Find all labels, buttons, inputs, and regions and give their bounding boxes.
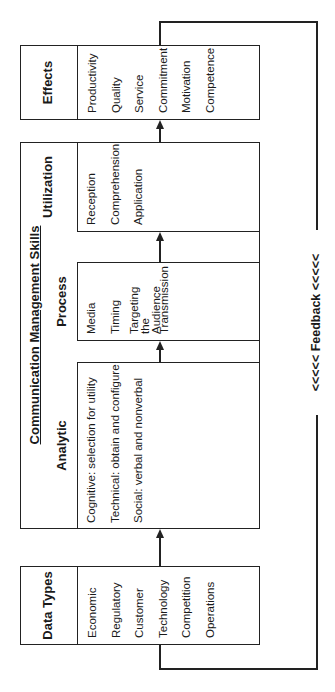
- feedback-line-corner-right: [159, 22, 318, 24]
- analytic-title: Analytic: [54, 362, 69, 529]
- data-type-item: Customer: [128, 571, 152, 638]
- process-item: Media: [80, 267, 104, 334]
- process-item: Timing: [104, 267, 128, 334]
- arrow-utilization-to-effects: [159, 128, 161, 142]
- process-box: Media Timing Targeting the Audience Tran…: [77, 262, 260, 341]
- feedback-line-lower: [316, 415, 318, 670]
- data-types-list: Economic Regulatory Customer Technology …: [81, 571, 222, 638]
- data-types-box: Data Types Economic Regulatory Customer …: [20, 566, 260, 645]
- diagram-canvas: Data Types Economic Regulatory Customer …: [0, 0, 335, 692]
- data-types-header: Data Types: [21, 567, 78, 644]
- data-type-item: Technology: [152, 571, 176, 638]
- analytic-item: Social: verbal and nonverbal: [127, 367, 151, 523]
- arrowhead-icon: [156, 120, 164, 129]
- effects-header: Effects: [21, 46, 78, 119]
- utilization-item: Application: [127, 146, 151, 225]
- effect-item: Competence: [199, 50, 223, 113]
- arrow-analytic-to-process: [159, 349, 161, 362]
- feedback-label: <<<<< Feedback <<<<<: [309, 230, 323, 415]
- feedback-line-upper: [316, 22, 318, 230]
- analytic-list: Cognitive: selection for utility Technic…: [80, 367, 151, 523]
- data-type-item: Operations: [199, 571, 223, 638]
- arrowhead-icon: [156, 341, 164, 350]
- process-item: Transmission: [153, 267, 177, 334]
- effect-item: Service: [128, 50, 152, 113]
- effect-item: Motivation: [175, 50, 199, 113]
- analytic-item: Technical: obtain and configure: [104, 367, 128, 523]
- utilization-box: Reception Comprehension Application: [77, 142, 260, 232]
- process-item: Targeting the Audience: [127, 268, 153, 334]
- utilization-item: Comprehension: [104, 146, 128, 225]
- effect-item: Productivity: [81, 50, 105, 113]
- effect-item: Commitment: [152, 50, 176, 113]
- feedback-line-effects-out: [159, 22, 161, 45]
- data-type-item: Regulatory: [105, 571, 129, 638]
- data-type-item: Economic: [81, 571, 105, 638]
- utilization-item: Reception: [80, 146, 104, 225]
- arrowhead-icon: [156, 232, 164, 241]
- utilization-list: Reception Comprehension Application: [80, 146, 151, 225]
- comm-border-bottom: [259, 142, 261, 529]
- arrow-process-to-utilization: [159, 240, 161, 262]
- data-types-title: Data Types: [40, 567, 55, 644]
- analytic-box: Cognitive: selection for utility Technic…: [77, 362, 260, 529]
- data-type-item: Competition: [175, 571, 199, 638]
- utilization-title: Utilization: [40, 142, 55, 232]
- arrowhead-icon: [156, 529, 164, 538]
- feedback-line-corner-left: [159, 669, 318, 671]
- effects-box: Effects Productivity Quality Service Com…: [20, 45, 260, 120]
- analytic-item: Cognitive: selection for utility: [80, 367, 104, 523]
- effects-list: Productivity Quality Service Commitment …: [81, 50, 222, 113]
- process-list: Media Timing Targeting the Audience Tran…: [80, 267, 176, 334]
- feedback-line-into-data-types: [159, 645, 161, 670]
- effects-title: Effects: [40, 46, 55, 119]
- process-title: Process: [54, 262, 69, 341]
- arrow-data-to-analytic: [159, 538, 161, 566]
- effect-item: Quality: [105, 50, 129, 113]
